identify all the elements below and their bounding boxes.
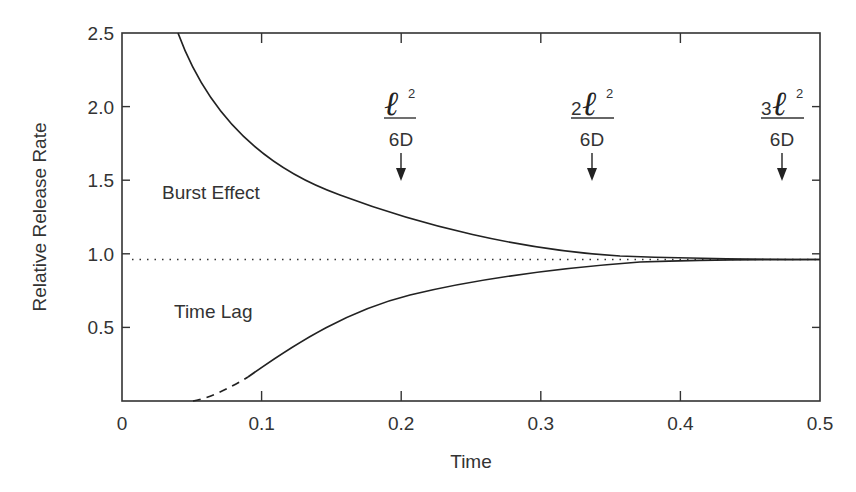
y-tick-label: 0.5: [88, 317, 114, 338]
time-lag-curve: [248, 260, 820, 378]
y-tick-labels: 0.5 1.0 1.5 2.0 2.5: [88, 23, 114, 338]
annotation-l2-6d: ℓ 2 6D: [384, 83, 416, 181]
x-tick-label: 0.4: [667, 413, 694, 434]
release-rate-chart: 0 0.1 0.2 0.3 0.4 0.5 0.5 1.0 1.5 2.0 2.…: [0, 0, 856, 492]
arrowhead-icon: [396, 168, 406, 181]
x-axis-title: Time: [450, 451, 492, 472]
denominator-6d: 6D: [770, 129, 794, 150]
denominator-6d: 6D: [580, 129, 604, 150]
annotation-2l2-6d: 2 ℓ 2 6D: [571, 83, 614, 181]
time-lag-curve-dashed: [193, 377, 248, 401]
script-l-symbol: ℓ: [384, 83, 398, 123]
x-tick-label: 0.1: [248, 413, 274, 434]
x-tick-label: 0.5: [807, 413, 833, 434]
y-tick-label: 1.0: [88, 244, 114, 265]
coefficient-3: 3: [761, 98, 772, 119]
burst-effect-curve: [178, 33, 820, 260]
y-tick-label: 2.5: [88, 23, 114, 44]
annotation-3l2-6d: 3 ℓ 2 6D: [761, 83, 804, 181]
x-tick-labels: 0 0.1 0.2 0.3 0.4 0.5: [117, 413, 834, 434]
x-tick-label: 0: [117, 413, 128, 434]
x-tick-label: 0.3: [528, 413, 554, 434]
superscript-2: 2: [606, 86, 613, 101]
superscript-2: 2: [796, 86, 803, 101]
superscript-2: 2: [408, 86, 415, 101]
arrowhead-icon: [777, 168, 787, 181]
script-l-symbol: ℓ: [772, 83, 786, 123]
coefficient-2: 2: [571, 98, 582, 119]
burst-effect-label: Burst Effect: [162, 182, 261, 203]
y-axis-title: Relative Release Rate: [29, 122, 50, 311]
x-ticks: [262, 33, 681, 401]
script-l-symbol: ℓ: [582, 83, 596, 123]
time-lag-label: Time Lag: [174, 301, 253, 322]
x-tick-label: 0.2: [388, 413, 414, 434]
y-ticks: [122, 107, 820, 328]
denominator-6d: 6D: [389, 129, 413, 150]
plot-frame: [122, 33, 820, 401]
y-tick-label: 1.5: [88, 170, 114, 191]
arrowhead-icon: [587, 168, 597, 181]
y-tick-label: 2.0: [88, 97, 114, 118]
